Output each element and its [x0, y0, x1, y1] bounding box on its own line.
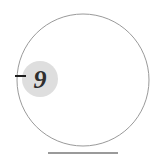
- figure-svg: 9: [0, 0, 164, 163]
- figure-canvas: 9: [0, 0, 164, 163]
- marker-label: 9: [34, 65, 47, 94]
